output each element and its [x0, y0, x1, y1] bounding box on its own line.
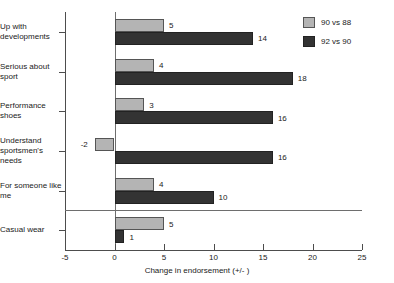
x-axis-tick-label: 15	[259, 253, 268, 262]
x-axis-tick	[214, 244, 215, 250]
chart-legend: 90 vs 88 92 vs 90	[303, 17, 351, 55]
bar	[115, 19, 165, 32]
bar	[115, 72, 293, 85]
bar-value-label: 4	[159, 180, 163, 189]
legend-swatch-icon	[303, 36, 315, 47]
x-axis-tick-label: -5	[61, 253, 68, 262]
value-axis-line	[65, 250, 362, 251]
bar-value-label: 5	[169, 21, 173, 30]
legend-item-label: 90 vs 88	[321, 18, 351, 27]
bar	[115, 59, 155, 72]
bar-value-label: 10	[219, 193, 228, 202]
category-label: Performance shoes	[0, 101, 62, 121]
x-axis-tick	[65, 244, 66, 250]
bar-value-label: 3	[149, 100, 153, 109]
legend-item-label: 92 vs 90	[321, 37, 351, 46]
x-axis-tick-label: 0	[112, 253, 116, 262]
x-axis-tick	[313, 244, 314, 250]
bar	[115, 32, 254, 45]
x-axis-tick-label: 10	[209, 253, 218, 262]
x-axis-title: Change in endorsement (+/- )	[0, 266, 394, 275]
x-axis-tick	[362, 244, 363, 250]
bar	[115, 217, 165, 230]
zero-reference-line	[115, 12, 116, 250]
x-axis-tick-label: 5	[162, 253, 166, 262]
category-label: For someone like me	[0, 181, 62, 201]
x-axis-tick	[115, 244, 116, 250]
bar	[115, 178, 155, 191]
bar-value-label: 18	[298, 74, 307, 83]
legend-item: 90 vs 88	[303, 17, 351, 28]
bar-value-label: 4	[159, 61, 163, 70]
category-label: Understand sportsmen's needs	[0, 136, 62, 166]
bar-value-label: -2	[81, 140, 88, 149]
x-axis-tick-label: 25	[358, 253, 367, 262]
bar-value-label: 1	[129, 232, 133, 241]
bar	[115, 230, 125, 243]
bar	[115, 151, 273, 164]
category-group-separator	[65, 210, 362, 211]
x-axis-tick	[263, 244, 264, 250]
bar-chart: 514418316-21641051 Up with developmentsS…	[0, 0, 394, 283]
category-label: Serious about sport	[0, 62, 62, 82]
bar	[95, 138, 115, 151]
bar	[115, 98, 145, 111]
bar-value-label: 14	[258, 34, 267, 43]
x-axis-tick-label: 20	[308, 253, 317, 262]
bar	[115, 111, 273, 124]
legend-swatch-icon	[303, 17, 315, 28]
bar	[115, 191, 214, 204]
bar-value-label: 16	[278, 113, 287, 122]
bar-value-label: 5	[169, 219, 173, 228]
category-label: Up with developments	[0, 22, 62, 42]
category-label: Casual wear	[0, 225, 62, 235]
x-axis-tick	[164, 244, 165, 250]
legend-item: 92 vs 90	[303, 36, 351, 47]
bar-value-label: 16	[278, 153, 287, 162]
